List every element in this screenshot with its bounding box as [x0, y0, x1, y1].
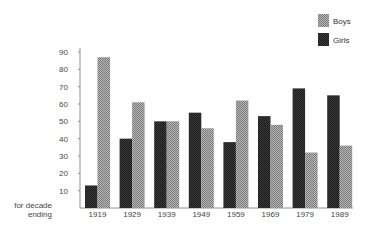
- bar-chart: 102030405060708090 191919291939194919591…: [0, 0, 370, 232]
- x-ticks: 19191929193919491959196919791989: [89, 210, 350, 219]
- x-tick-label: 1949: [192, 210, 210, 219]
- legend: Boys Girls: [318, 14, 351, 46]
- bars: [85, 57, 352, 208]
- legend-label-boys: Boys: [333, 17, 351, 26]
- bar-girls-1939: [154, 121, 167, 208]
- y-tick-label: 20: [59, 169, 68, 178]
- x-axis-label-line-2: ending: [28, 210, 52, 219]
- x-axis-label: for decade ending: [14, 201, 52, 219]
- bar-boys-1949: [201, 128, 214, 208]
- x-axis-label-line-1: for decade: [14, 201, 52, 210]
- y-tick-label: 80: [59, 65, 68, 74]
- bar-boys-1979: [305, 153, 318, 208]
- y-tick-label: 30: [59, 152, 68, 161]
- bar-girls-1919: [85, 185, 98, 208]
- bar-boys-1989: [340, 146, 353, 208]
- bar-girls-1989: [327, 95, 340, 208]
- y-tick-label: 70: [59, 83, 68, 92]
- bar-boys-1919: [98, 57, 111, 208]
- bar-girls-1929: [120, 139, 133, 208]
- x-tick-label: 1929: [123, 210, 141, 219]
- x-tick-label: 1989: [331, 210, 349, 219]
- bar-boys-1939: [167, 121, 180, 208]
- y-tick-label: 60: [59, 100, 68, 109]
- y-tick-label: 90: [59, 48, 68, 57]
- x-tick-label: 1939: [158, 210, 176, 219]
- bar-girls-1969: [258, 116, 271, 208]
- x-tick-label: 1959: [227, 210, 245, 219]
- bar-boys-1929: [132, 102, 145, 208]
- x-tick-label: 1979: [296, 210, 314, 219]
- y-tick-label: 10: [59, 187, 68, 196]
- bar-boys-1969: [271, 125, 284, 208]
- bar-girls-1979: [293, 88, 306, 208]
- y-tick-label: 50: [59, 117, 68, 126]
- bar-girls-1959: [223, 142, 236, 208]
- y-ticks: 102030405060708090: [59, 48, 80, 196]
- y-tick-label: 40: [59, 135, 68, 144]
- bar-girls-1949: [189, 113, 202, 208]
- legend-label-girls: Girls: [333, 36, 349, 45]
- bar-boys-1959: [236, 101, 249, 208]
- legend-swatch-boys: [318, 14, 329, 27]
- x-tick-label: 1969: [262, 210, 280, 219]
- x-tick-label: 1919: [89, 210, 107, 219]
- legend-swatch-girls: [318, 33, 329, 46]
